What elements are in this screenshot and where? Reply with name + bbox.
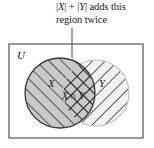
universe-label: U xyxy=(17,49,26,61)
intersection-label-x: X xyxy=(61,91,69,101)
venn-diagram-canvas: U X Y X∩Y xyxy=(0,0,154,148)
set-x-label: X xyxy=(47,78,55,89)
intersection-label: X∩Y xyxy=(61,91,86,101)
venn-diagram-figure: |X| + |Y| adds this region twice xyxy=(0,0,154,148)
intersection-operator-icon: ∩ xyxy=(70,91,77,101)
